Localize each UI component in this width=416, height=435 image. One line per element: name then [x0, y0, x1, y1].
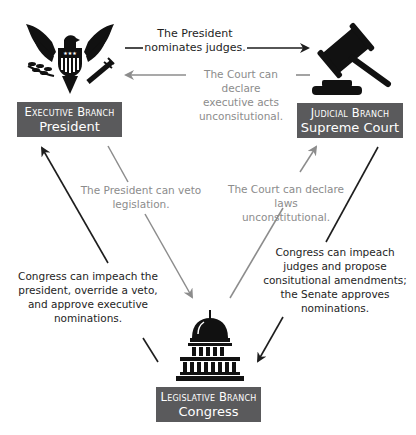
- capitol-icon: [176, 306, 244, 382]
- label-congress-impeach-president: Congress can impeach the president, over…: [18, 269, 158, 325]
- label-president-veto: The President can veto legislation.: [76, 183, 206, 211]
- legislative-branch-name: Congress: [156, 404, 261, 420]
- executive-branch-name: President: [17, 119, 122, 135]
- legislative-branch-label: Legislative Branch: [156, 390, 261, 404]
- judicial-branch-label: Judicial Branch: [297, 106, 403, 120]
- label-president-nominates-judges: The President nominates judges.: [143, 27, 247, 55]
- label-court-declares-laws: The Court can declare laws unconstitutio…: [216, 182, 356, 224]
- executive-branch-label: Executive Branch: [17, 105, 122, 119]
- eagle-seal-icon: ★★★: [22, 18, 118, 96]
- judicial-branch-box: Judicial Branch Supreme Court: [297, 103, 403, 138]
- judicial-branch-name: Supreme Court: [297, 120, 403, 136]
- arrow-legislative-to-exec: [42, 148, 158, 362]
- executive-branch-box: Executive Branch President: [17, 102, 122, 137]
- label-congress-impeach-judges: Congress can impeach judges and propose …: [262, 245, 408, 315]
- svg-text:★★★: ★★★: [63, 50, 77, 56]
- gavel-icon: [308, 22, 396, 97]
- legislative-branch-box: Legislative Branch Congress: [156, 387, 261, 422]
- label-court-declares-exec-acts: The Court can declare executive acts unc…: [186, 67, 296, 123]
